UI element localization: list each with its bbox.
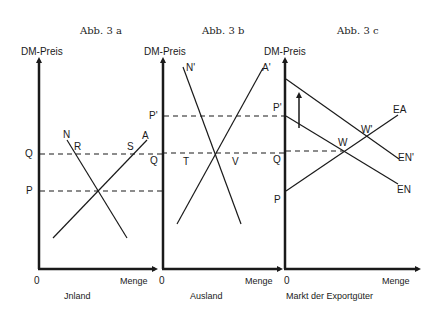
x-axis-label-3a: Menge — [120, 276, 148, 286]
label-S: S — [127, 142, 134, 152]
label-EN: EN — [397, 185, 411, 195]
panel-3c — [284, 60, 418, 269]
y-axis-label-3b: DM-Preis — [144, 47, 186, 57]
title-3b: Abb. 3 b — [202, 26, 244, 36]
label-W: W — [338, 138, 347, 148]
y-axis-label-3c: DM-Preis — [264, 47, 306, 57]
origin-3a: 0 — [34, 276, 40, 286]
label-Ap: A' — [262, 63, 271, 73]
y-axis-label-3a: DM-Preis — [21, 47, 63, 57]
label-Pp-3b: P' — [149, 111, 158, 121]
panel-3a — [38, 60, 162, 269]
caption-3b: Ausland — [190, 291, 223, 301]
label-Q-3b: Q — [150, 156, 158, 166]
x-axis-label-3c: Menge — [382, 276, 410, 286]
demand-curve-N — [67, 140, 127, 238]
origin-3c: 0 — [284, 276, 290, 286]
label-P-3c: P — [274, 195, 281, 205]
panel-3b — [162, 60, 285, 269]
caption-3c: Markt der Exportgüter — [286, 291, 373, 301]
label-Np: N' — [186, 63, 195, 73]
caption-3a: Jnland — [64, 291, 91, 301]
label-Pp-3c: P' — [273, 103, 282, 113]
label-P-3a: P — [26, 186, 33, 196]
label-EA: EA — [393, 105, 406, 115]
label-Wp: W' — [361, 125, 372, 135]
supply-curve-Ap — [177, 68, 263, 224]
demand-curve-Np — [183, 67, 241, 224]
label-A: A — [142, 131, 149, 141]
label-V: V — [232, 157, 239, 167]
title-3c: Abb. 3 c — [337, 26, 379, 36]
origin-3b: 0 — [159, 276, 165, 286]
title-3a: Abb. 3 a — [80, 26, 122, 36]
x-axis-label-3b: Menge — [245, 276, 273, 286]
label-R: R — [74, 142, 81, 152]
economics-diagram — [0, 0, 440, 317]
label-T: T — [183, 157, 189, 167]
supply-curve-A — [53, 140, 147, 238]
label-N: N — [63, 130, 70, 140]
label-ENp: EN' — [398, 153, 414, 163]
label-Q-3c: Q — [273, 155, 281, 165]
label-Q-3a: Q — [25, 149, 33, 159]
